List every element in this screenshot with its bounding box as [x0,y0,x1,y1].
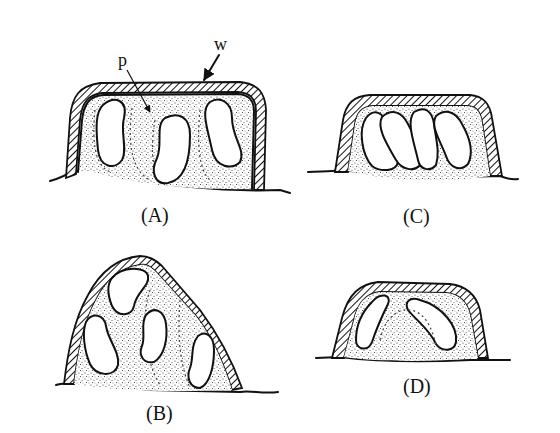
cavity [97,100,125,166]
caption-c: (C) [403,205,430,228]
caption-b: (B) [146,402,173,425]
panel-c: (C) [308,95,518,228]
panel-d: (D) [316,282,510,398]
label-w: w [214,34,227,54]
label-p: p [118,50,127,70]
pointer-w [204,55,219,80]
panel-a: p w (A) [50,34,290,227]
diagram-canvas: p w (A) (C) (B) (D) [0,0,560,433]
caption-a: (A) [141,204,169,227]
panel-b: (B) [56,256,278,425]
caption-d: (D) [403,375,431,398]
